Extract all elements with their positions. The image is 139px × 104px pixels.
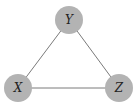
graph-diagram: Y X Z xyxy=(0,0,139,104)
node-z-label: Z xyxy=(114,81,124,95)
node-z: Z xyxy=(105,74,133,102)
node-x-label: X xyxy=(13,81,23,95)
node-x: X xyxy=(4,74,32,102)
node-y-label: Y xyxy=(65,13,74,27)
node-y: Y xyxy=(55,6,83,34)
